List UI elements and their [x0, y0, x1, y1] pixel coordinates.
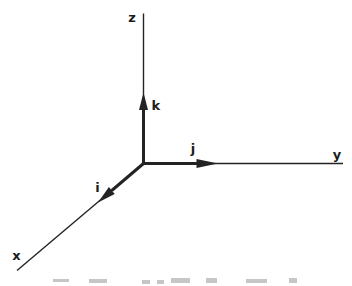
- y-axis-label: y: [333, 147, 342, 162]
- k-vector-arrowhead: [139, 93, 148, 111]
- z-axis-label: z: [128, 10, 136, 25]
- coordinate-axes-diagram: z y x k j i: [0, 0, 352, 286]
- cropped-caption-fragment: [246, 279, 267, 283]
- x-axis-label: x: [12, 248, 21, 263]
- i-vector-shaft: [112, 164, 144, 191]
- figure-canvas: z y x k j i: [0, 0, 352, 286]
- i-vector-label: i: [95, 180, 99, 195]
- j-vector-label: j: [190, 141, 195, 156]
- cropped-caption-fragment: [171, 278, 190, 283]
- cropped-caption-fragment: [206, 278, 217, 283]
- cropped-caption-fragment: [53, 279, 69, 282]
- cropped-caption-fragment: [142, 280, 150, 284]
- cropped-caption-fragment: [289, 278, 297, 283]
- k-vector-label: k: [152, 98, 161, 113]
- j-vector-arrowhead: [197, 159, 219, 168]
- cropped-caption-fragments: [53, 278, 297, 284]
- cropped-caption-fragment: [157, 280, 164, 284]
- cropped-caption-fragment: [89, 279, 107, 283]
